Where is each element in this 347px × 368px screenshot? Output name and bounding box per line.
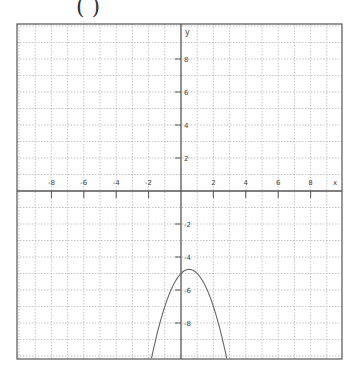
x-tick-label: 2 <box>211 179 215 187</box>
y-tick-label: 4 <box>184 122 189 130</box>
x-tick-label: -8 <box>48 179 55 187</box>
y-tick-label: -8 <box>184 320 191 328</box>
x-tick-label: 4 <box>244 179 249 187</box>
x-tick-label: -2 <box>145 179 152 187</box>
y-tick-label: -6 <box>184 287 192 295</box>
x-tick-label: -4 <box>113 179 121 187</box>
y-axis-label: y <box>185 28 190 37</box>
parabola-curve <box>152 269 227 358</box>
y-tick-label: -2 <box>184 221 191 229</box>
x-tick-label: 8 <box>308 179 312 187</box>
y-tick-label: 2 <box>184 155 188 163</box>
y-tick-label: 6 <box>184 89 189 97</box>
x-tick-label: -6 <box>80 179 88 187</box>
x-axis-label: x <box>333 179 337 187</box>
x-tick-label: 6 <box>276 179 281 187</box>
y-tick-label: 8 <box>184 56 188 64</box>
chart: -8-6-4-224688642-2-4-6-8xy <box>0 0 347 368</box>
y-tick-label: -4 <box>184 254 192 262</box>
